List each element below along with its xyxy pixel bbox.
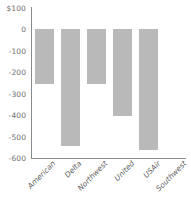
y-axis-tick-label: -500 — [9, 132, 26, 141]
x-axis-category-label: USAir — [141, 159, 162, 180]
x-axis-category-label: Delta — [63, 159, 84, 180]
bar — [113, 29, 132, 116]
bar — [35, 29, 54, 84]
y-axis-tick-label: -200 — [9, 68, 26, 77]
y-axis-tick-label: -100 — [9, 46, 26, 55]
x-axis-category-labels: AmericanDeltaNorthwestUnitedUSAirSouthwe… — [31, 159, 191, 202]
bar-series — [31, 8, 188, 158]
bar — [87, 29, 106, 84]
bar-chart: $1000-100-200-300-400-500-600 AmericanDe… — [0, 0, 191, 202]
bar-slot — [35, 8, 54, 158]
bar-slot — [139, 8, 158, 158]
y-axis-tick-label: $100 — [7, 4, 27, 13]
bar — [139, 29, 158, 150]
bar — [61, 29, 80, 146]
bar-slot — [87, 8, 106, 158]
bar-slot — [165, 8, 184, 158]
bar-slot — [113, 8, 132, 158]
y-axis-tick-label: 0 — [21, 25, 26, 34]
x-axis-category-label: American — [26, 159, 58, 191]
bar-slot — [61, 8, 80, 158]
y-axis-tick-label: -300 — [9, 89, 26, 98]
y-axis-tick-label: -600 — [9, 154, 26, 163]
y-axis-tick-labels: $1000-100-200-300-400-500-600 — [0, 0, 28, 202]
x-axis-category-label: United — [112, 159, 136, 183]
y-axis-tick-label: -400 — [9, 111, 26, 120]
